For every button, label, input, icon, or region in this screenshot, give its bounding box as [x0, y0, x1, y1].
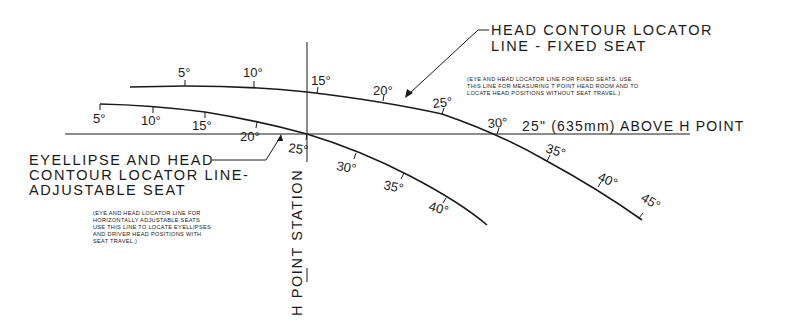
h-point-station-label: H POINT STATION	[289, 169, 305, 316]
fixed-angle-10: 10°	[243, 65, 263, 80]
arrowhead-icon	[405, 89, 413, 98]
adjustable-seat-note-line5: SEAT TRAVEL.)	[93, 238, 137, 244]
adjustable-seat-note-line4: AND DRIVER HEAD POSITIONS WITH	[93, 231, 201, 237]
fixed-angle-35: 35°	[544, 141, 567, 161]
fixed-seat-note-line2: THIS LINE FOR MEASURING T POINT HEAD ROO…	[467, 83, 639, 89]
adjustable-seat-note-line1: (EYE AND HEAD LOCATOR LINE FOR	[93, 210, 201, 216]
fixed-seat-title-line1: HEAD CONTOUR LOCATOR	[491, 22, 713, 38]
fixed-seat-ticks	[185, 80, 643, 218]
fixed-angle-40: 40°	[596, 169, 620, 191]
adjustable-seat-title-line1: EYELLIPSE AND HEAD	[29, 152, 214, 168]
head-contour-diagram: 5° 10° 15° 20° 25° 30° 35° 40° 45° 5° 10…	[0, 0, 790, 327]
adjustable-angle-10: 10°	[141, 113, 161, 128]
fixed-angle-45: 45°	[638, 190, 663, 213]
fixed-seat-note-line1: (EYE AND HEAD LOCATOR LINE FOR FIXED SEA…	[467, 76, 632, 82]
adjustable-seat-note-line2: HORIZONTALLY ADJUSTABLE SEATS	[93, 217, 200, 223]
fixed-angle-30: 30°	[487, 115, 508, 131]
arrowhead-icon	[277, 134, 283, 141]
adjustable-angle-20: 20°	[240, 129, 260, 144]
adjustable-seat-title-line3: ADJUSTABLE SEAT	[29, 182, 186, 198]
adjustable-angle-15: 15°	[192, 118, 212, 133]
adjustable-angle-40: 40°	[427, 198, 450, 218]
fixed-angle-5: 5°	[178, 65, 190, 80]
adjustable-angle-25: 25°	[288, 140, 310, 158]
adjustable-angle-35: 35°	[382, 177, 404, 196]
fixed-seat-note-line3: LOCATE HEAD POSITIONS WITHOUT SEAT TRAVE…	[467, 90, 620, 96]
reference-line-label: 25" (635mm) ABOVE H POINT	[522, 118, 744, 134]
adjustable-angle-5: 5°	[93, 111, 105, 126]
fixed-angle-15: 15°	[311, 73, 331, 88]
fixed-angle-25: 25°	[432, 94, 453, 111]
adjustable-seat-note-line3: USE THIS LINE TO LOCATE EYELLIPSES	[93, 224, 211, 230]
adjustable-seat-title-line2: CONTOUR LOCATOR LINE-	[29, 167, 250, 183]
adjustable-angle-30: 30°	[335, 158, 357, 176]
fixed-seat-title-line2: LINE - FIXED SEAT	[491, 38, 647, 54]
fixed-angle-20: 20°	[373, 83, 393, 98]
